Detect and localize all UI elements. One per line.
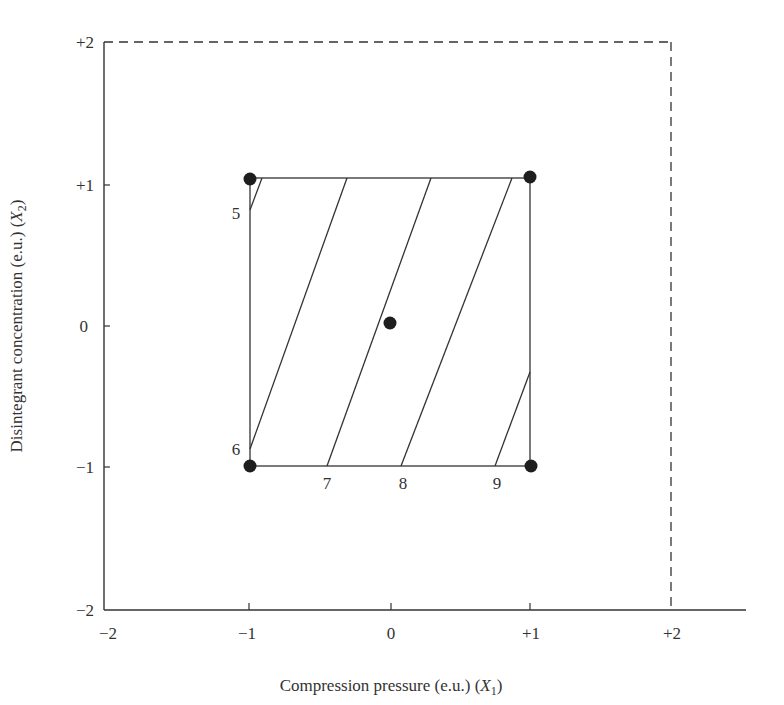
design-point [244,460,257,473]
y-ticks [104,185,110,467]
contour-plot: +2 +1 0 −1 −2 −2 −1 0 +1 +2 Compression … [0,0,784,705]
x-tick-label: −1 [238,624,256,643]
x-tick-label: 0 [387,624,396,643]
contour-line-8 [401,178,512,466]
contour-label-9: 9 [493,474,502,493]
contour-label-6: 6 [232,440,241,459]
contour-line-7 [327,178,431,466]
x-ticks [249,603,530,610]
contour-line-6 [250,178,347,449]
design-point [525,460,538,473]
y-tick-label: +1 [76,176,94,195]
x-tick-label: +2 [663,624,681,643]
design-point [244,173,257,186]
contour-label-7: 7 [323,474,332,493]
y-tick-label: −2 [76,601,94,620]
contour-label-8: 8 [399,474,408,493]
y-tick-label: 0 [80,317,89,336]
contour-line-9 [495,372,530,466]
x-tick-label: +1 [522,624,540,643]
x-tick-label: −2 [99,624,117,643]
center-point [384,317,397,330]
y-tick-label: −1 [76,458,94,477]
y-axis-title: Disintegrant concentration (e.u.) (X2) [7,200,29,453]
design-points [244,171,538,473]
y-tick-label: +2 [76,33,94,52]
contour-label-5: 5 [232,204,241,223]
x-axis-title: Compression pressure (e.u.) (X1) [280,676,503,698]
design-point [524,171,537,184]
